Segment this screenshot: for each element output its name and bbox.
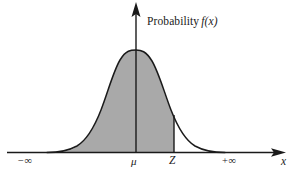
y-axis-title-function: f(x) (199, 15, 217, 27)
shaded-probability-region (54, 50, 174, 152)
normal-distribution-figure: Probabilityf(x) −∞ μ Z +∞ x (0, 0, 303, 178)
x-tick-label-mean: μ (131, 156, 137, 167)
x-tick-label-positive-infinity: +∞ (222, 156, 236, 167)
x-tick-label-z: Z (169, 155, 175, 167)
x-tick-label-negative-infinity: −∞ (18, 156, 32, 167)
x-axis-label: x (281, 156, 286, 168)
y-axis-title-text: Probability (147, 15, 199, 27)
y-axis-title: Probabilityf(x) (147, 16, 218, 28)
